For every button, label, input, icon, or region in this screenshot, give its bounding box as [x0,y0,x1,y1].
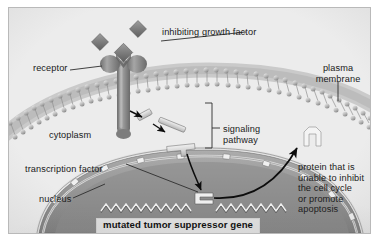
label-protein-outcome: protein that is unable to inhibit the ce… [298,162,371,215]
label-protein-outcome-line2: unable to inhibit [298,173,364,183]
signaling-pathway-bracket [205,103,220,148]
label-mutated-tumor-suppressor-gene: mutated tumor suppressor gene [96,218,260,234]
label-signaling-pathway-line2: pathway [223,135,258,145]
arrow-signal-1-to-2 [153,124,165,132]
ligand-free-left [92,34,109,51]
label-plasma-membrane: plasma membrane [305,63,371,84]
label-plasma-membrane-line2: membrane [316,74,361,84]
ligand-free-upper [130,21,147,38]
label-protein-outcome-line5: apoptosis [298,204,338,214]
label-signaling-pathway: signaling pathway [223,124,281,145]
label-plasma-membrane-line1: plasma [323,63,353,73]
defective-protein [304,127,321,146]
label-inhibiting-growth-factor: inhibiting growth factor [162,27,256,38]
label-signaling-pathway-line1: signaling [223,124,260,134]
illustration-panel: inhibiting growth factor receptor plasma… [8,7,371,234]
label-protein-outcome-line4: or promote [298,194,343,204]
label-nucleus: nucleus [39,194,71,205]
label-protein-outcome-line1: protein that is [298,162,355,172]
label-transcription-factor: transcription factor [25,164,103,175]
label-protein-outcome-line3: the cell cycle [298,183,352,193]
figure-canvas: inhibiting growth factor receptor plasma… [0,0,377,239]
label-receptor: receptor [33,63,68,74]
leader-receptor [70,66,102,70]
label-cytoplasm: cytoplasm [49,130,91,141]
